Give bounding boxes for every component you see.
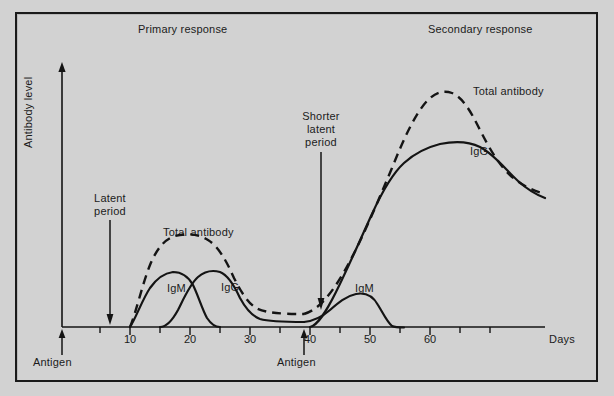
antigen-arrow-second bbox=[301, 329, 308, 355]
figure-container: Primary response Secondary response Anti… bbox=[0, 0, 614, 396]
x-axis-ticks bbox=[100, 327, 490, 335]
plot-svg bbox=[0, 0, 614, 396]
curve-total-antibody-secondary bbox=[304, 92, 545, 314]
latent-period-arrow bbox=[107, 220, 114, 325]
y-axis-arrowhead bbox=[58, 62, 65, 72]
antigen-arrow-first bbox=[59, 329, 66, 355]
curve-igg-primary bbox=[160, 271, 304, 327]
shorter-latent-period-arrow bbox=[318, 152, 325, 310]
